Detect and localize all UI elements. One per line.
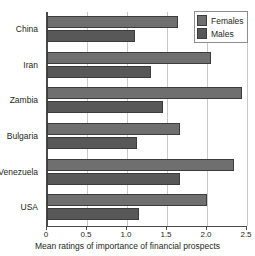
gridline xyxy=(247,12,248,226)
x-axis-title: Mean ratings of importance of financial … xyxy=(0,241,255,251)
category-label-china: China xyxy=(0,25,38,34)
bar-males-zambia xyxy=(47,101,163,113)
bar-males-usa xyxy=(47,208,139,220)
bar-group xyxy=(47,155,247,191)
bar-males-venezuela xyxy=(47,173,180,185)
x-tick-label: 1.0 xyxy=(120,230,131,239)
legend-item-males: Males xyxy=(197,27,244,40)
x-tick-label: 0.5 xyxy=(80,230,91,239)
legend-label-males: Males xyxy=(211,29,234,39)
category-label-bulgaria: Bulgaria xyxy=(0,132,38,141)
bar-group xyxy=(47,190,247,226)
x-tick-label: 0 xyxy=(44,230,48,239)
bar-females-venezuela xyxy=(47,159,234,171)
bar-females-bulgaria xyxy=(47,123,180,135)
x-axis-ticks: 00.51.01.52.02.5 xyxy=(46,227,246,239)
plot-area xyxy=(46,12,247,227)
category-label-zambia: Zambia xyxy=(0,96,38,105)
bar-males-iran xyxy=(47,66,151,78)
males-swatch-icon xyxy=(197,28,207,39)
bar-females-zambia xyxy=(47,87,242,99)
x-tick-label: 1.5 xyxy=(160,230,171,239)
bar-males-china xyxy=(47,30,135,42)
category-axis-labels: ChinaIranZambiaBulgariaVenezuelaUSA xyxy=(0,12,42,226)
bar-females-china xyxy=(47,16,178,28)
bar-groups xyxy=(47,12,247,226)
category-label-iran: Iran xyxy=(0,61,38,70)
category-label-usa: USA xyxy=(0,203,38,212)
category-label-venezuela: Venezuela xyxy=(0,168,38,177)
bar-group xyxy=(47,48,247,84)
bar-males-bulgaria xyxy=(47,137,137,149)
bar-group xyxy=(47,83,247,119)
x-tick-label: 2.0 xyxy=(200,230,211,239)
legend-item-females: Females xyxy=(197,14,244,27)
legend: Females Males xyxy=(194,11,248,43)
bar-group xyxy=(47,119,247,155)
x-tick-label: 2.5 xyxy=(240,230,251,239)
bar-chart: ChinaIranZambiaBulgariaVenezuelaUSA 00.5… xyxy=(0,0,255,256)
females-swatch-icon xyxy=(197,15,207,26)
bar-females-usa xyxy=(47,194,207,206)
bar-females-iran xyxy=(47,52,211,64)
legend-label-females: Females xyxy=(211,16,244,26)
